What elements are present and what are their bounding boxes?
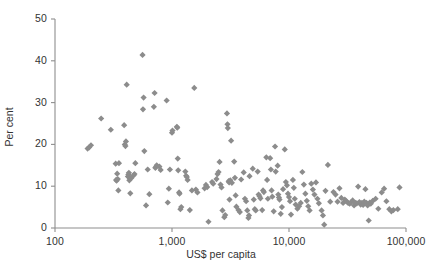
data-point-marker <box>322 188 328 194</box>
data-point-marker <box>282 146 288 152</box>
x-tick-label: 1,000 <box>132 235 212 247</box>
data-markers <box>85 52 403 228</box>
data-point-marker <box>187 207 193 213</box>
data-point-marker <box>255 168 261 174</box>
data-point-marker <box>124 82 130 88</box>
data-point-marker <box>304 198 310 204</box>
data-point-marker <box>291 185 297 191</box>
data-point-marker <box>151 104 157 110</box>
data-point-marker <box>366 217 372 223</box>
data-point-marker <box>139 52 145 58</box>
data-point-marker <box>279 204 285 210</box>
y-axis-title-wrap: Per cent <box>2 92 16 162</box>
data-point-marker <box>233 192 239 198</box>
data-point-marker <box>246 173 252 179</box>
data-point-marker <box>327 199 333 205</box>
data-point-marker <box>280 186 286 192</box>
data-point-marker <box>141 148 147 154</box>
y-axis-ticks <box>51 19 55 228</box>
data-point-marker <box>272 143 278 149</box>
data-point-marker <box>115 187 121 193</box>
data-point-marker <box>127 190 133 196</box>
data-point-marker <box>175 156 181 162</box>
data-point-marker <box>375 206 381 212</box>
data-point-marker <box>334 199 340 205</box>
data-point-marker <box>132 160 138 166</box>
data-point-marker <box>396 184 402 190</box>
y-tick-label: 10 <box>0 179 47 191</box>
data-point-marker <box>175 167 181 173</box>
data-point-marker <box>320 212 326 218</box>
data-point-marker <box>302 191 308 197</box>
data-point-marker <box>98 115 104 121</box>
data-point-marker <box>140 106 146 112</box>
y-tick-label: 40 <box>0 54 47 66</box>
data-point-marker <box>216 159 222 165</box>
data-point-marker <box>231 158 237 164</box>
x-tick-label: 100,000 <box>366 235 442 247</box>
data-point-marker <box>355 184 361 190</box>
data-point-marker <box>205 219 211 225</box>
data-point-marker <box>288 212 294 218</box>
data-point-marker <box>321 222 327 228</box>
data-point-marker <box>228 138 234 144</box>
data-point-marker <box>108 127 114 133</box>
data-point-marker <box>145 166 151 172</box>
y-tick-label: 0 <box>0 221 47 233</box>
y-axis-title: Per cent <box>3 107 15 146</box>
data-point-marker <box>308 181 314 187</box>
data-point-marker <box>224 110 230 116</box>
data-point-marker <box>225 125 231 131</box>
data-point-marker <box>310 186 316 192</box>
data-point-marker <box>141 94 147 100</box>
data-point-marker <box>167 166 173 172</box>
data-point-marker <box>278 211 284 217</box>
data-point-marker <box>151 90 157 96</box>
data-point-marker <box>250 166 256 172</box>
data-point-marker <box>325 162 331 168</box>
data-point-marker <box>226 196 232 202</box>
data-point-marker <box>121 122 127 128</box>
data-point-marker <box>146 191 152 197</box>
data-point-marker <box>143 202 149 208</box>
data-point-marker <box>290 177 296 183</box>
scatter-chart: 01020304050 1001,00010,000100,000 Per ce… <box>0 0 442 268</box>
data-point-marker <box>241 169 247 175</box>
data-point-marker <box>264 177 270 183</box>
axis-lines <box>55 19 406 228</box>
data-point-marker <box>336 185 342 191</box>
data-point-marker <box>271 208 277 214</box>
data-point-marker <box>164 97 170 103</box>
data-point-marker <box>238 176 244 182</box>
data-point-marker <box>114 171 120 177</box>
data-point-marker <box>259 207 265 213</box>
plot-area <box>0 0 442 268</box>
data-point-marker <box>244 207 250 213</box>
x-tick-label: 10,000 <box>249 235 329 247</box>
data-point-marker <box>395 206 401 212</box>
data-point-marker <box>362 186 368 192</box>
data-point-marker <box>301 181 307 187</box>
data-point-marker <box>165 199 171 205</box>
x-tick-label: 100 <box>15 235 95 247</box>
x-axis-title: US$ per capita <box>0 248 442 260</box>
y-tick-label: 50 <box>0 12 47 24</box>
data-point-marker <box>316 200 322 206</box>
data-point-marker <box>299 169 305 175</box>
data-point-marker <box>268 187 274 193</box>
data-point-marker <box>313 179 319 185</box>
data-point-marker <box>251 196 257 202</box>
data-point-marker <box>191 85 197 91</box>
data-point-marker <box>319 207 325 213</box>
x-axis-ticks <box>55 228 406 232</box>
data-point-marker <box>275 163 281 169</box>
data-point-marker <box>166 186 172 192</box>
data-point-marker <box>383 198 389 204</box>
